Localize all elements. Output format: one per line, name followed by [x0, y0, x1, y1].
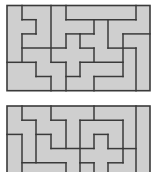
bottom-pentomino-grid	[0, 0, 164, 172]
bottom-puzzle	[0, 0, 164, 172]
